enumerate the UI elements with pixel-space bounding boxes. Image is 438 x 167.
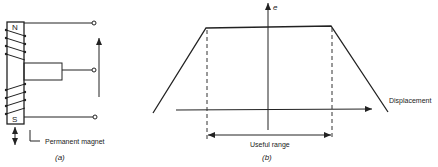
magnet-leader-line xyxy=(30,130,40,141)
x-axis-label: Displacement xyxy=(389,97,431,105)
figure-a: N S Permanent magnet (a) xyxy=(5,21,105,162)
lower-coil xyxy=(5,83,26,115)
middle-terminal xyxy=(92,68,96,72)
top-terminal xyxy=(92,21,96,25)
y-axis-label: e xyxy=(273,3,278,12)
x-axis xyxy=(176,109,372,110)
caption-b: (b) xyxy=(262,153,272,162)
bottom-terminal xyxy=(93,115,97,119)
diagram-canvas: N S Permanent magnet (a) xyxy=(0,0,438,167)
figure-b: e Displacement Useful range (b) xyxy=(153,3,431,162)
useful-range-label: Useful range xyxy=(250,141,290,149)
pickup-probe xyxy=(24,63,62,80)
response-curve xyxy=(153,26,388,113)
pole-north-label: N xyxy=(12,23,18,32)
upper-coil xyxy=(5,29,26,60)
pole-south-label: S xyxy=(12,115,17,124)
permanent-magnet-label: Permanent magnet xyxy=(45,138,105,146)
caption-a: (a) xyxy=(55,153,65,162)
